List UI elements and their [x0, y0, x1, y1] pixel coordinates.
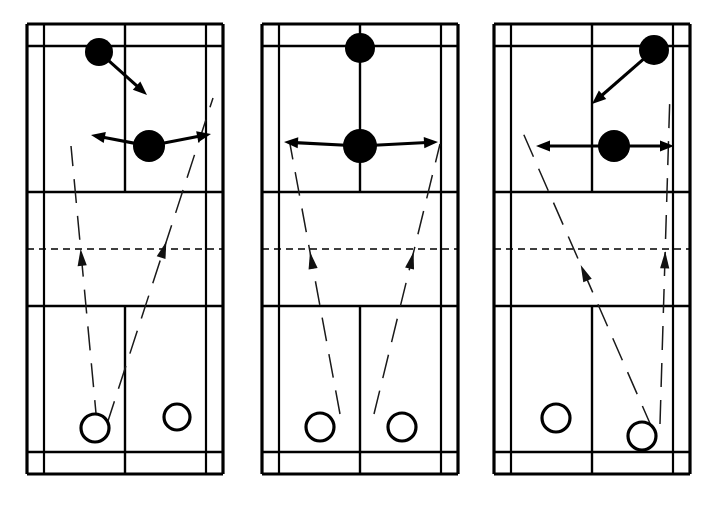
open-player-marker-defender-left	[542, 404, 570, 432]
figure-canvas	[0, 0, 721, 512]
open-player-marker-defender-right	[628, 422, 656, 450]
badminton-court-figure	[0, 0, 721, 512]
movement-arrow-front-attacker-1	[369, 143, 427, 146]
panel-2-court-lines	[262, 24, 458, 474]
dark-player-marker-rear-attacker	[639, 35, 669, 65]
dark-player-marker-front-attacker	[133, 130, 165, 162]
movement-arrow-rear-attacker-0	[600, 55, 647, 96]
open-player-marker-defender-left	[81, 414, 109, 442]
panel-3-trajectories	[520, 92, 670, 428]
panel-1-court-lines	[27, 24, 223, 474]
movement-arrow-rear-attacker-0	[105, 57, 139, 88]
panel-3	[494, 24, 690, 474]
shuttle-right-lift	[374, 144, 440, 414]
shuttle-straight-lift-arrowhead	[660, 251, 669, 268]
open-player-marker-defender-right	[388, 413, 416, 441]
shuttle-right-lift-arrowhead	[157, 241, 167, 259]
panel-1	[27, 24, 223, 474]
movement-arrowhead-front-attacker-1	[424, 137, 438, 148]
panel-3-open-players	[542, 404, 656, 450]
panel-1-dark-players	[85, 38, 211, 162]
shuttle-left-lift	[290, 144, 340, 414]
movement-arrow-front-attacker-0	[295, 143, 351, 146]
panel-3-dark-players	[536, 35, 674, 162]
panel-2-trajectories	[290, 144, 440, 414]
panel-2	[262, 24, 458, 474]
shuttle-right-lift-arrowhead	[405, 252, 414, 270]
dark-player-marker-front-attacker	[598, 130, 630, 162]
movement-arrowhead-front-attacker-0	[536, 140, 550, 151]
shuttle-left-lift	[71, 146, 97, 424]
movement-arrowhead-front-attacker-0	[91, 132, 106, 143]
panel-1-open-players	[81, 404, 190, 442]
dark-player-marker-rear-attacker	[345, 33, 375, 63]
movement-arrowhead-front-attacker-1	[196, 131, 211, 142]
open-player-marker-defender-left	[306, 413, 334, 441]
dark-player-marker-front-attacker	[343, 129, 377, 163]
dark-player-marker-rear-attacker	[85, 38, 113, 66]
shuttle-left-lift-arrowhead	[309, 252, 318, 270]
open-player-marker-defender-right	[164, 404, 190, 430]
shuttle-left-lift-arrowhead	[78, 249, 87, 266]
shuttle-cross-lift-arrowhead	[581, 265, 592, 282]
